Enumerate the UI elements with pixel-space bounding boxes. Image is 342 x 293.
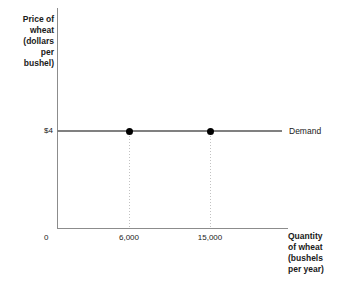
y-axis-tick-label-price: $4 <box>44 126 53 135</box>
demand-curve-line <box>57 130 282 132</box>
data-point-6000 <box>126 128 133 135</box>
dropline-6000 <box>129 133 130 228</box>
x-axis-line <box>57 228 288 229</box>
x-axis-title: Quantity of wheat (bushels per year) <box>288 231 324 275</box>
y-axis-title: Price of wheat (dollars per bushel) <box>23 14 54 69</box>
y-axis-line <box>57 8 58 229</box>
demand-series-label: Demand <box>289 126 321 136</box>
x-axis-tick-label-15000: 15,000 <box>198 233 222 242</box>
x-axis-tick-label-6000: 6,000 <box>119 233 139 242</box>
demand-curve-chart: Price of wheat (dollars per bushel) Quan… <box>0 0 342 293</box>
dropline-15000 <box>210 133 211 228</box>
origin-label: 0 <box>44 233 48 242</box>
data-point-15000 <box>207 128 214 135</box>
